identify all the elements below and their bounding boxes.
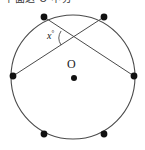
point-top-right bbox=[101, 14, 108, 21]
figure-canvas: 下面这 O 中分 O x° bbox=[0, 0, 145, 150]
chord-topright-to-left bbox=[13, 17, 104, 76]
circle-diagram-svg bbox=[0, 0, 145, 150]
degree-symbol: ° bbox=[51, 29, 54, 37]
angle-label-x: x° bbox=[47, 29, 54, 41]
point-bottom-right bbox=[101, 131, 108, 138]
point-right bbox=[131, 73, 138, 80]
point-bottom-left bbox=[41, 131, 48, 138]
chord-topleft-to-right bbox=[44, 17, 134, 76]
point-top-left bbox=[41, 14, 48, 21]
center-dot bbox=[71, 75, 77, 81]
point-left bbox=[10, 73, 17, 80]
angle-arc-marker bbox=[59, 31, 61, 45]
center-label-O: O bbox=[67, 57, 76, 72]
